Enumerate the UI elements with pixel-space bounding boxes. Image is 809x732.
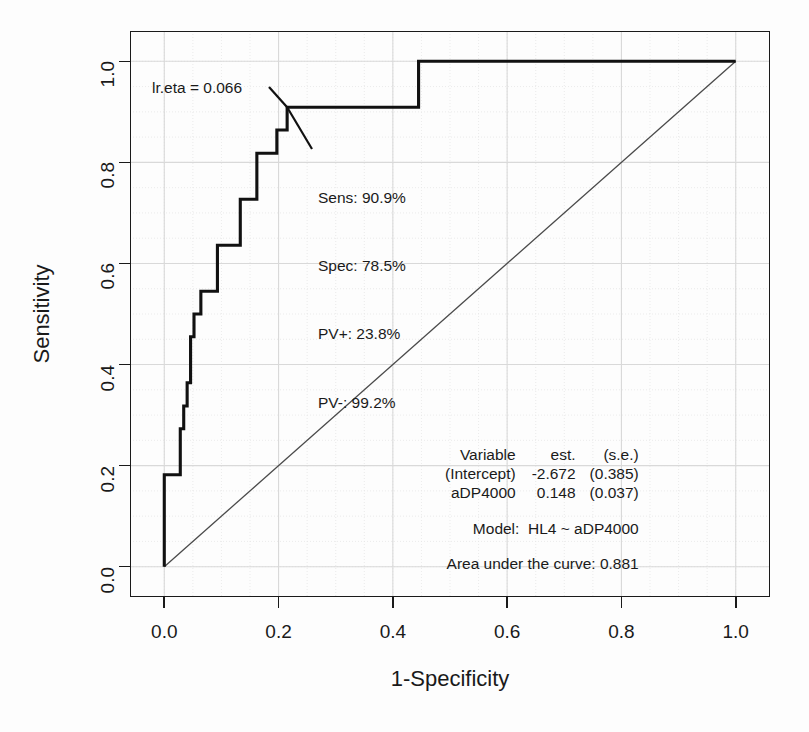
x-axis-tick	[163, 597, 165, 608]
y-axis-tick	[119, 364, 130, 366]
metric-npv: PV-: 99.2%	[318, 392, 406, 415]
x-axis-tick-label: 0.6	[494, 621, 520, 643]
x-axis-tick	[278, 597, 280, 608]
header-estimate: est.	[532, 446, 590, 465]
x-axis-tick-label: 0.0	[151, 621, 177, 643]
model-formula-line: Model: HL4 ~ aDP4000	[445, 503, 639, 538]
y-axis-tick	[119, 566, 130, 568]
x-axis-tick-label: 0.2	[265, 621, 291, 643]
cell-estimate: 0.148	[532, 484, 590, 503]
roc-plot: lr.eta = 0.066 Sens: 90.9% Spec: 78.5% P…	[130, 31, 770, 597]
x-axis-title: 1-Specificity	[130, 666, 770, 692]
table-row: (Intercept) -2.672 (0.385)	[445, 465, 639, 484]
y-axis-tick-label: 0.4	[97, 365, 119, 391]
operating-point-metrics: Sens: 90.9% Spec: 78.5% PV+: 23.8% PV-: …	[318, 141, 406, 460]
x-axis-tick	[621, 597, 623, 608]
cell-stderr: (0.385)	[590, 465, 639, 484]
y-axis-tick-label: 0.8	[97, 162, 119, 188]
metric-ppv: PV+: 23.8%	[318, 323, 406, 346]
y-axis-tick	[119, 465, 130, 467]
y-axis-tick-label: 0.6	[97, 263, 119, 289]
header-stderr: (s.e.)	[590, 446, 639, 465]
table-header-row: Variable est. (s.e.)	[445, 446, 639, 465]
x-axis-tick	[506, 597, 508, 608]
table-row: aDP4000 0.148 (0.037)	[445, 484, 639, 503]
cell-stderr: (0.037)	[590, 484, 639, 503]
y-axis-tick-label: 1.0	[97, 61, 119, 87]
x-axis-tick-label: 0.4	[380, 621, 406, 643]
x-axis-tick	[735, 597, 737, 608]
metric-specificity: Spec: 78.5%	[318, 255, 406, 278]
model-coefficients-table: Variable est. (s.e.) (Intercept) -2.672 …	[445, 446, 639, 503]
y-axis-tick-label: 0.0	[97, 567, 119, 593]
x-axis-tick-label: 0.8	[608, 621, 634, 643]
cutoff-threshold-label: lr.eta = 0.066	[152, 79, 242, 97]
cell-variable: (Intercept)	[445, 465, 532, 484]
y-axis-tick	[119, 162, 130, 164]
y-axis-tick	[119, 61, 130, 63]
x-axis-tick-label: 1.0	[722, 621, 748, 643]
y-axis-tick	[119, 263, 130, 265]
cell-estimate: -2.672	[532, 465, 590, 484]
auc-line: Area under the curve: 0.881	[445, 538, 639, 573]
metric-sensitivity: Sens: 90.9%	[318, 187, 406, 210]
x-axis-tick	[392, 597, 394, 608]
header-variable: Variable	[445, 446, 532, 465]
y-axis-title: Sensitivity	[30, 31, 54, 597]
model-summary-block: Variable est. (s.e.) (Intercept) -2.672 …	[445, 446, 639, 573]
y-axis-title-label: Sensitivity	[29, 264, 55, 363]
y-axis-tick-label: 0.2	[97, 466, 119, 492]
cell-variable: aDP4000	[445, 484, 532, 503]
